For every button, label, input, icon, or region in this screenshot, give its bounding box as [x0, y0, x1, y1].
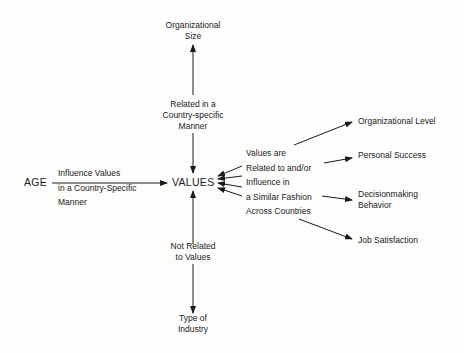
relation-bottom-line-2: to Values: [171, 252, 216, 263]
arrow-to-personal-success: [324, 158, 352, 163]
relation-right-line-4: a Similar Fashion: [246, 192, 312, 203]
relation-left-line-2: in a Country-Specific: [58, 183, 136, 194]
relation-top-line-3: Manner: [163, 121, 224, 132]
node-type-industry-line-2: Industry: [178, 324, 208, 335]
arrow-right-4-to-values: [218, 188, 242, 196]
relation-right-line-5: Across Countries: [246, 206, 311, 217]
node-age: AGE: [24, 177, 47, 188]
node-organizational-level: Organizational Level: [358, 116, 436, 127]
node-values: VALUES: [172, 177, 214, 188]
arrow-right-1-to-values: [218, 166, 242, 176]
node-decisionmaking-behavior: Decisionmaking Behavior: [358, 189, 418, 211]
arrow-to-job-satisfaction: [299, 219, 352, 239]
arrow-right-3-to-values: [218, 183, 242, 187]
relation-bottom-line-1: Not Related: [171, 241, 216, 252]
node-org-size-line-1: Organizational: [166, 20, 221, 31]
node-organizational-size: Organizational Size: [166, 20, 221, 42]
relation-right-line-3: Influence in: [246, 177, 289, 188]
arrow-to-decisionmaking: [322, 196, 352, 200]
diagram-canvas: Organizational Size Related in a Country…: [0, 0, 464, 353]
node-org-size-line-2: Size: [166, 31, 221, 42]
node-job-satisfaction: Job Satisfaction: [358, 235, 418, 246]
node-type-industry-line-1: Type of: [178, 313, 208, 324]
relation-left-line-1: Influence Values: [58, 168, 120, 179]
relation-bottom: Not Related to Values: [171, 241, 216, 263]
relation-top: Related in a Country-specific Manner: [163, 99, 224, 132]
relation-right-line-2: Related to and/or: [246, 163, 311, 174]
node-decisionmaking-line-2: Behavior: [358, 200, 418, 211]
relation-right-line-1: Values are: [246, 148, 286, 159]
node-type-of-industry: Type of Industry: [178, 313, 208, 335]
arrow-right-2-to-values: [218, 176, 242, 179]
relation-left-line-3: Manner: [58, 197, 87, 208]
node-decisionmaking-line-1: Decisionmaking: [358, 189, 418, 200]
relation-top-line-2: Country-specific: [163, 110, 224, 121]
relation-top-line-1: Related in a: [163, 99, 224, 110]
arrow-to-org-level: [294, 122, 352, 145]
node-personal-success: Personal Success: [358, 150, 426, 161]
